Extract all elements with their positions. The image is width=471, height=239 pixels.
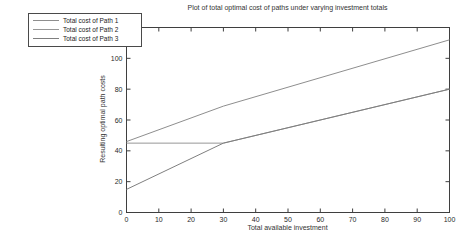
legend-row-path-1: Total cost of Path 1 [33, 16, 137, 25]
x-tick-label: 0 [125, 216, 129, 223]
x-tick-label: 10 [155, 216, 163, 223]
x-tick-label: 90 [413, 216, 421, 223]
series-line-path-3 [127, 89, 450, 189]
x-tick-label: 80 [381, 216, 389, 223]
legend-label-path-3: Total cost of Path 3 [63, 34, 118, 43]
y-tick-label: 80 [115, 86, 123, 93]
y-tick-label: 40 [115, 147, 123, 154]
y-tick-label: 20 [115, 178, 123, 185]
y-tick-label: 100 [111, 55, 123, 62]
series-line-path-2 [127, 89, 450, 143]
figure: Plot of total optimal cost of paths unde… [0, 0, 471, 239]
axes-box [127, 28, 450, 213]
x-axis-label: Total available investment [126, 224, 449, 231]
legend: Total cost of Path 1Total cost of Path 2… [28, 13, 142, 47]
legend-line-sample-path-2 [33, 29, 59, 30]
x-tick-label: 60 [316, 216, 324, 223]
x-tick-label: 50 [284, 216, 292, 223]
legend-row-path-3: Total cost of Path 3 [33, 34, 137, 43]
x-tick-label: 40 [252, 216, 260, 223]
legend-line-sample-path-3 [33, 38, 59, 39]
legend-line-sample-path-1 [33, 20, 59, 21]
y-tick-label: 60 [115, 117, 123, 124]
y-tick-label: 0 [119, 209, 123, 216]
x-tick-label: 20 [187, 216, 195, 223]
x-tick-label: 70 [349, 216, 357, 223]
legend-row-path-2: Total cost of Path 2 [33, 25, 137, 34]
x-tick-label: 30 [220, 216, 228, 223]
series-line-path-1 [127, 40, 450, 142]
legend-label-path-2: Total cost of Path 2 [63, 25, 118, 34]
x-tick-label: 100 [444, 216, 456, 223]
legend-label-path-1: Total cost of Path 1 [63, 16, 118, 25]
